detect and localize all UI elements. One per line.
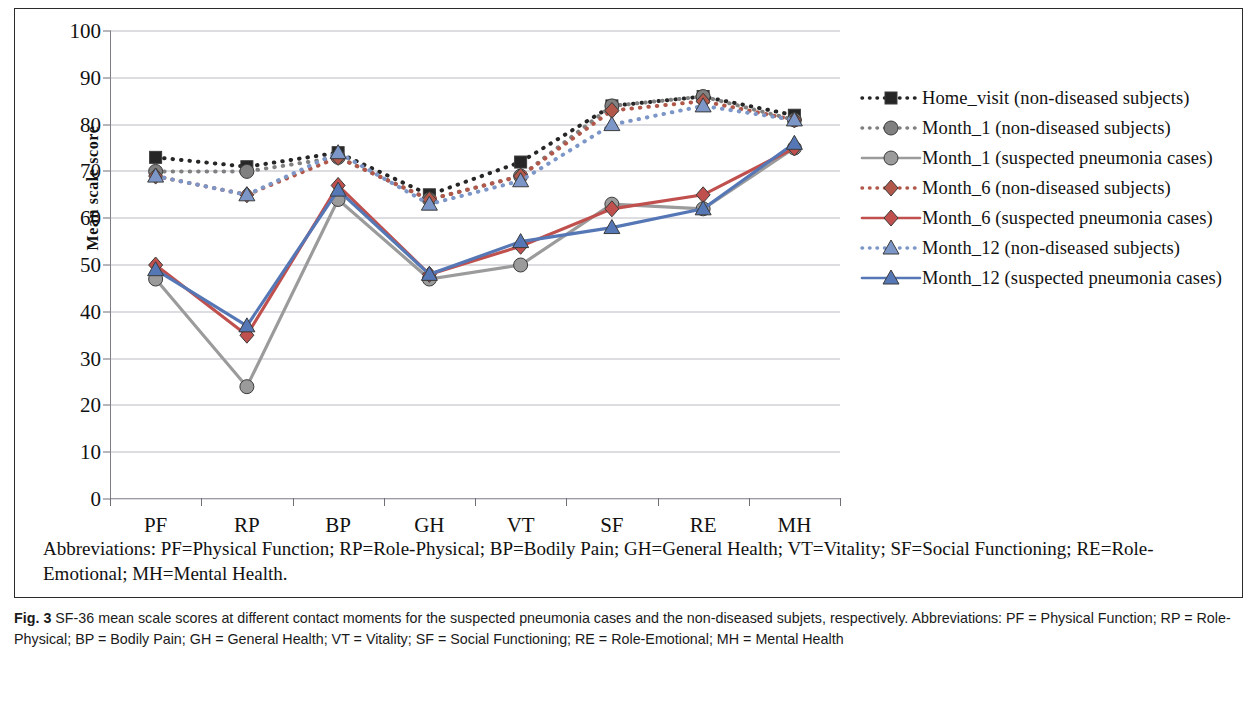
data-point-marker [514, 258, 528, 272]
x-tick-label: SF [600, 513, 623, 538]
y-tick-label: 10 [80, 440, 101, 465]
y-tick-label: 50 [80, 253, 101, 278]
x-tick-label: BP [325, 513, 351, 538]
x-tick-label: MH [777, 513, 811, 538]
series-plot [110, 31, 840, 499]
legend-key-swatch [860, 208, 922, 228]
legend-key-swatch [860, 118, 922, 138]
legend-label: Home_visit (non-diseased subjects) [922, 88, 1190, 109]
x-tick-label: RE [690, 513, 717, 538]
data-point-marker [240, 380, 254, 394]
data-point-marker [515, 156, 527, 168]
x-tick-label: GH [414, 513, 444, 538]
legend-item-3[interactable]: Month_6 (non-diseased subjects) [860, 173, 1238, 203]
legend-label: Month_12 (suspected pneumonia cases) [922, 268, 1222, 289]
data-point-marker [240, 164, 254, 178]
legend-item-0[interactable]: Home_visit (non-diseased subjects) [860, 83, 1238, 113]
legend-key-swatch [860, 178, 922, 198]
legend-item-2[interactable]: Month_1 (suspected pneumonia cases) [860, 143, 1238, 173]
x-tick-mark [749, 498, 750, 506]
legend-label: Month_6 (suspected pneumonia cases) [922, 208, 1213, 229]
data-point-marker [604, 117, 620, 131]
x-tick-mark [566, 498, 567, 506]
x-tick-label: RP [234, 513, 260, 538]
figure-frame: Mean scale score 0102030405060708090100 … [14, 8, 1243, 598]
x-tick-mark [110, 498, 111, 506]
legend-label: Month_6 (non-diseased subjects) [922, 178, 1171, 199]
abbreviations-note: Abbreviations: PF=Physical Function; RP=… [43, 536, 1203, 586]
legend-item-5[interactable]: Month_12 (non-diseased subjects) [860, 233, 1238, 263]
series-line [156, 101, 795, 199]
figure-caption: Fig. 3 SF-36 mean scale scores at differ… [14, 608, 1244, 649]
plot-region: 0102030405060708090100 PFRPBPGHVTSFREMH [110, 31, 840, 499]
chart-area: Mean scale score 0102030405060708090100 … [15, 9, 855, 529]
legend-item-6[interactable]: Month_12 (suspected pneumonia cases) [860, 263, 1238, 293]
y-tick-label: 90 [80, 65, 101, 90]
y-tick-label: 80 [80, 112, 101, 137]
legend-key-swatch [860, 238, 922, 258]
x-tick-mark [475, 498, 476, 506]
figure-page: Mean scale score 0102030405060708090100 … [0, 0, 1257, 705]
y-tick-label: 60 [80, 206, 101, 231]
x-tick-mark [201, 498, 202, 506]
data-point-marker [150, 151, 162, 163]
x-tick-label: PF [144, 513, 167, 538]
x-tick-mark [658, 498, 659, 506]
x-tick-mark [293, 498, 294, 506]
y-tick-label: 0 [91, 487, 102, 512]
chart-legend: Home_visit (non-diseased subjects)Month_… [860, 83, 1238, 293]
y-tick-label: 100 [70, 19, 102, 44]
legend-item-4[interactable]: Month_6 (suspected pneumonia cases) [860, 203, 1238, 233]
legend-label: Month_1 (non-diseased subjects) [922, 118, 1171, 139]
x-tick-label: VT [507, 513, 535, 538]
y-tick-label: 40 [80, 299, 101, 324]
data-point-marker [786, 135, 802, 149]
y-tick-label: 30 [80, 346, 101, 371]
legend-label: Month_1 (suspected pneumonia cases) [922, 148, 1213, 169]
x-tick-mark [840, 498, 841, 506]
y-tick-label: 70 [80, 159, 101, 184]
abbreviations-line-1: Abbreviations: PF=Physical Function; RP=… [43, 538, 970, 559]
legend-item-1[interactable]: Month_1 (non-diseased subjects) [860, 113, 1238, 143]
legend-key-swatch [860, 88, 922, 108]
series-line [156, 148, 795, 387]
x-tick-mark [384, 498, 385, 506]
caption-body: SF-36 mean scale scores at different con… [14, 610, 1231, 647]
y-tick-label: 20 [80, 393, 101, 418]
legend-key-swatch [860, 148, 922, 168]
legend-key-swatch [860, 268, 922, 288]
caption-label: Fig. 3 [14, 610, 51, 626]
legend-label: Month_12 (non-diseased subjects) [922, 238, 1180, 259]
